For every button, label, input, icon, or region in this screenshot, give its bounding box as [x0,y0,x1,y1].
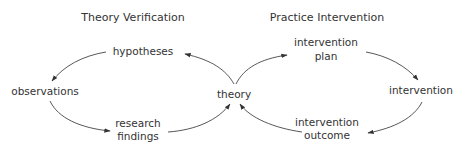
arrow-theory-to-intervention-plan [236,55,287,84]
node-intervention-outcome-line2: outcome [304,129,350,141]
node-intervention-outcome-line1: intervention [295,116,359,128]
title-practice-intervention: Practice Intervention [270,11,385,24]
node-observations: observations [11,85,79,97]
node-hypotheses: hypotheses [113,45,174,57]
node-theory: theory [217,88,251,100]
arrow-observations-to-research-findings [50,101,110,131]
arrow-intervention-plan-to-intervention [366,52,418,80]
arrow-intervention-outcome-to-theory [240,104,302,132]
node-intervention: intervention [389,84,453,96]
node-intervention-plan-line2: plan [315,50,338,62]
arrow-intervention-to-intervention-outcome [368,102,422,133]
arrow-hypotheses-to-observations [52,52,106,81]
arrow-research-findings-to-theory [168,104,230,132]
title-theory-verification: Theory Verification [80,11,185,24]
diagram-canvas: Theory Verification Practice Interventio… [0,0,462,152]
arrow-theory-to-hypotheses [185,54,234,84]
node-research-findings-line1: research [115,117,160,129]
node-intervention-plan-line1: intervention [294,36,358,48]
node-research-findings-line2: findings [117,130,159,142]
